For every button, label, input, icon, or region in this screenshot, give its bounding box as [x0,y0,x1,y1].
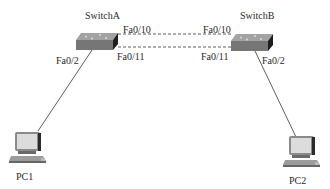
switch-b-port-fa011: Fa0/11 [201,51,228,62]
switch-b-port-fa010: Fa0/10 [203,24,231,35]
switch-a-port-fa02: Fa0/2 [56,55,79,66]
pc2-icon[interactable] [283,136,320,167]
switch-a-label: SwitchA [85,10,120,21]
pc1-icon[interactable] [9,132,46,163]
switch-a-port-fa010: Fa0/10 [123,24,151,35]
switch-b-port-fa02: Fa0/2 [262,55,285,66]
network-diagram: SwitchA SwitchB Fa0/10 Fa0/11 Fa0/2 Fa0/… [0,0,330,189]
switch-a-port-fa011: Fa0/11 [117,51,144,62]
diagram-canvas [0,0,330,189]
pc2-label: PC2 [289,175,306,186]
switch-a-icon[interactable] [76,33,118,50]
pc1-label: PC1 [16,171,33,182]
switch-b-icon[interactable] [231,34,273,51]
switch-b-label: SwitchB [240,10,274,21]
